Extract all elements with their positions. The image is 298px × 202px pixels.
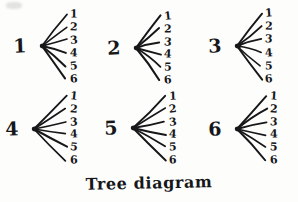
tree-node-point: [134, 46, 140, 51]
tree-leaf-label: 6: [264, 73, 273, 85]
tree-root-label: 6: [208, 119, 222, 138]
tree-leaf-label: 4: [169, 129, 177, 140]
tree-leaf-label: 1: [163, 10, 172, 22]
figure-caption: Tree diagram: [85, 172, 212, 194]
tree-leaf-label: 6: [70, 73, 78, 85]
tree-leaf-label: 1: [270, 90, 278, 101]
tree-leaf-label: 5: [164, 62, 172, 73]
tree-leaf-label: 5: [169, 142, 177, 153]
tree-leaf-label: 1: [69, 90, 78, 102]
tree-leaf-label: 6: [270, 154, 279, 166]
tree-leaf-label: 3: [265, 34, 273, 45]
tree-leaf-label: 2: [164, 23, 172, 34]
tree-leaf-label: 2: [270, 103, 278, 114]
tree-leaf-label: 2: [70, 21, 78, 32]
tree-leaf-label: 2: [70, 103, 79, 115]
tree-leaf-label: 5: [69, 141, 78, 153]
tree-leaf-label: 5: [69, 60, 78, 72]
tree-leaf-label: 5: [270, 142, 278, 153]
tree-node-point: [235, 127, 241, 132]
tree-leaf-label: 2: [168, 103, 177, 115]
tree-branch: [34, 96, 67, 129]
tree-leaf-label: 2: [265, 21, 273, 32]
tree-leaf-label: 3: [164, 36, 173, 48]
tree-leaf-label: 6: [164, 74, 173, 86]
tree-leaf-label: 3: [270, 116, 278, 127]
tree-branch-lines: [0, 0, 298, 202]
tree-leaf-label: 4: [70, 129, 78, 140]
tree-leaf-label: 4: [70, 47, 78, 58]
tree-leaf-label: 3: [69, 34, 78, 46]
tree-root-label: 4: [5, 119, 19, 138]
tree-node-point: [235, 44, 241, 49]
tree-diagram-figure: 1123456212345631234564123456512345661234…: [0, 0, 298, 202]
tree-leaf-label: 6: [169, 154, 177, 165]
tree-leaf-label: 3: [168, 116, 177, 128]
tree-leaf-label: 4: [164, 49, 172, 60]
tree-node-point: [131, 126, 137, 131]
tree-leaf-label: 3: [70, 116, 78, 127]
tree-root-label: 3: [208, 36, 222, 55]
tree-root-label: 1: [13, 36, 27, 55]
tree-leaf-label: 1: [265, 7, 273, 19]
tree-leaf-label: 1: [70, 8, 78, 19]
tree-leaf-label: 4: [270, 129, 278, 140]
tree-leaf-label: 6: [70, 154, 78, 165]
tree-root-label: 2: [107, 38, 121, 57]
tree-root-label: 5: [104, 118, 118, 137]
tree-leaf-label: 5: [265, 60, 273, 71]
tree-node-point: [40, 44, 46, 49]
tree-leaf-label: 4: [265, 47, 274, 59]
tree-node-point: [32, 127, 38, 132]
tree-leaf-label: 1: [169, 90, 177, 101]
